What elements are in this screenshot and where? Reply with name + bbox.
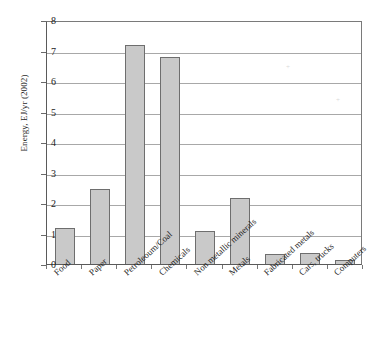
x-tick-mark <box>222 265 223 269</box>
gridline <box>47 83 361 84</box>
y-tick-mark <box>41 113 46 114</box>
x-tick-mark <box>116 265 117 269</box>
gridline <box>47 114 361 115</box>
bar <box>90 189 110 264</box>
x-tick-mark <box>151 265 152 269</box>
x-tick-mark <box>46 265 47 269</box>
scan-artifact: + <box>286 63 290 71</box>
x-tick-mark <box>327 265 328 269</box>
y-tick-mark <box>41 174 46 175</box>
y-tick-mark <box>41 21 46 22</box>
y-tick-mark <box>41 143 46 144</box>
x-tick-mark <box>362 265 363 269</box>
x-tick-mark <box>186 265 187 269</box>
y-tick-mark <box>41 204 46 205</box>
x-tick-mark <box>292 265 293 269</box>
x-tick-mark <box>257 265 258 269</box>
bar-chart: Energy, EJ/yr (2002) 012345678 FoodPaper… <box>0 0 377 353</box>
x-tick-mark <box>81 265 82 269</box>
y-tick-mark <box>41 235 46 236</box>
bar <box>125 45 145 264</box>
gridline <box>47 53 361 54</box>
y-tick-mark <box>41 52 46 53</box>
plot-area <box>46 21 362 265</box>
gridline <box>47 175 361 176</box>
gridline <box>47 144 361 145</box>
scan-artifact: + <box>336 96 340 104</box>
y-axis-title: Energy, EJ/yr (2002) <box>19 43 29 183</box>
y-tick-mark <box>41 82 46 83</box>
